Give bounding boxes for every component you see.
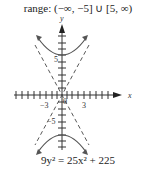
x-tick-label-neg3: −3 <box>40 101 49 110</box>
y-axis-label: y <box>59 14 64 23</box>
equation-caption: 9y² = 25x² + 225 <box>0 154 156 166</box>
x-tick-label-3: 3 <box>82 101 86 110</box>
x-axis-arrow-icon <box>113 92 122 98</box>
y-tick-label-5: 5 <box>54 55 58 64</box>
x-axis-label: x <box>127 91 132 100</box>
y-tick-label-neg5: −5 <box>47 117 56 126</box>
hyperbola-graph: x y −3 3 5 −5 0 <box>0 0 156 173</box>
y-axis-arrow-icon <box>59 24 65 33</box>
